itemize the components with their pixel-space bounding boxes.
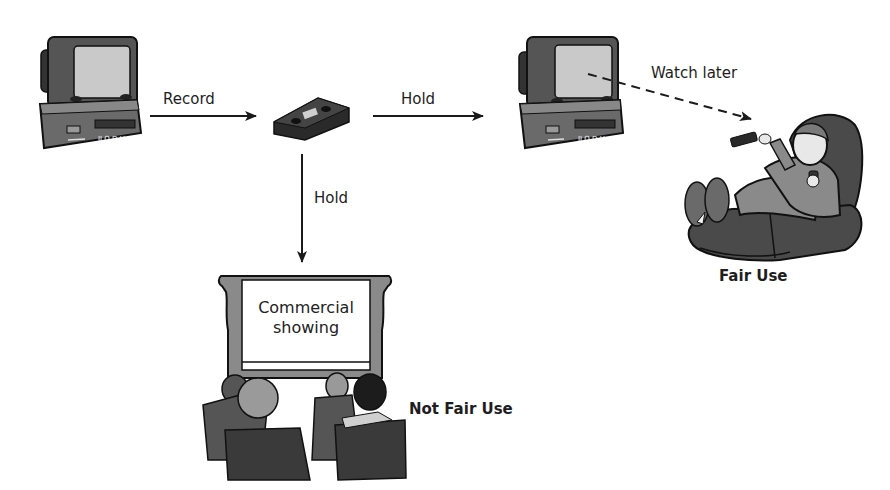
fair-use-diagram: II O D U II O D U [0, 0, 890, 490]
viewer-in-recliner-icon [685, 115, 862, 261]
not-fair-use-label: Not Fair Use [409, 402, 513, 417]
theater-screen-text: Commercial showing [236, 298, 376, 338]
svg-text:II O D U: II O D U [98, 135, 125, 143]
screen-text-line-1: Commercial [236, 298, 376, 318]
svg-text:II O D U: II O D U [578, 135, 605, 143]
hold-right-label: Hold [401, 92, 435, 107]
hold-down-label: Hold [314, 191, 348, 206]
screen-text-line-2: showing [236, 318, 376, 338]
fair-use-label: Fair Use [719, 269, 788, 284]
record-label: Record [163, 92, 215, 107]
source-tv-icon: II O D U [40, 37, 141, 148]
videotape-icon [274, 98, 349, 140]
home-tv-icon: II O D U [519, 37, 623, 148]
watch-later-label: Watch later [651, 66, 737, 81]
